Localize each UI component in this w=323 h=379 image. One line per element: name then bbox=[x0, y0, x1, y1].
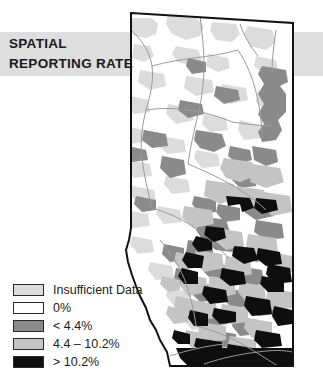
legend-swatch-insufficient-data bbox=[13, 284, 44, 296]
legend-label-over-10-2-percent: > 10.2% bbox=[53, 356, 99, 369]
legend-label-under-4-4-percent: < 4.4% bbox=[53, 320, 92, 333]
legend-label-insufficient-data: Insufficient Data bbox=[53, 284, 142, 297]
legend-swatch-4-4-to-10-2-percent bbox=[13, 338, 44, 350]
legend-swatch-under-4-4-percent bbox=[13, 320, 44, 332]
legend-item-insufficient-data: Insufficient Data bbox=[13, 281, 142, 299]
legend-swatch-zero-percent bbox=[13, 302, 44, 314]
legend-label-zero-percent: 0% bbox=[53, 302, 71, 315]
legend-item-4-4-to-10-2-percent: 4.4 – 10.2% bbox=[13, 335, 142, 353]
title-line-1: SPATIAL bbox=[9, 34, 133, 54]
legend-label-4-4-to-10-2-percent: 4.4 – 10.2% bbox=[53, 338, 120, 351]
legend: Insufficient Data 0% < 4.4% 4.4 – 10.2% … bbox=[13, 281, 142, 371]
page-title: SPATIAL REPORTING RATE bbox=[9, 34, 133, 74]
legend-item-zero-percent: 0% bbox=[13, 299, 142, 317]
legend-item-over-10-2-percent: > 10.2% bbox=[13, 353, 142, 371]
map-figure: SPATIAL REPORTING RATE Insufficient Data… bbox=[0, 0, 323, 379]
legend-item-under-4-4-percent: < 4.4% bbox=[13, 317, 142, 335]
title-line-2: REPORTING RATE bbox=[9, 54, 133, 74]
legend-swatch-over-10-2-percent bbox=[13, 356, 44, 368]
